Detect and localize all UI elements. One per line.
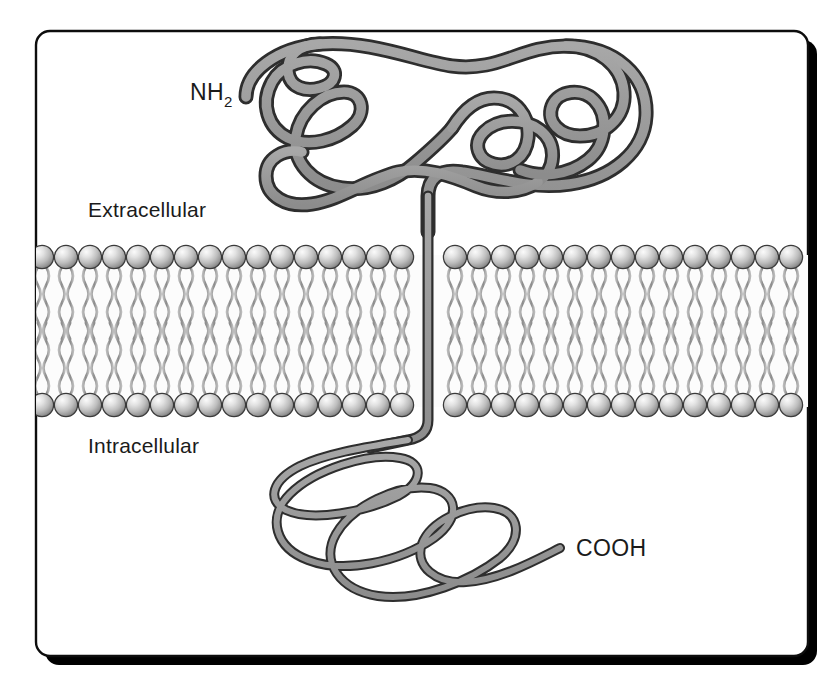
intracellular-label: Intracellular xyxy=(88,434,199,457)
phospholipid-bilayer xyxy=(30,245,808,416)
c-terminus-label: COOH xyxy=(576,535,647,561)
extracellular-label: Extracellular xyxy=(88,198,206,221)
transmembrane-protein-figure: NH2 Extracellular Intracellular COOH xyxy=(0,0,836,687)
n-terminus-subscript: 2 xyxy=(224,93,233,110)
figure-root: NH2 Extracellular Intracellular COOH xyxy=(0,0,836,687)
bilayer-interior xyxy=(30,255,808,407)
